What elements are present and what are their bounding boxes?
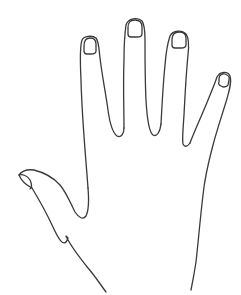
middle-fingernail — [128, 20, 142, 37]
index-fingernail — [84, 38, 96, 54]
ring-fingernail — [172, 32, 186, 48]
index-finger-outline — [80, 36, 124, 188]
pinky-finger-outline — [190, 72, 231, 290]
pinky-fingernail — [219, 74, 230, 87]
palm-outer-edge — [32, 188, 106, 292]
thumb-outline — [19, 170, 89, 218]
hand-drawing — [0, 0, 241, 295]
